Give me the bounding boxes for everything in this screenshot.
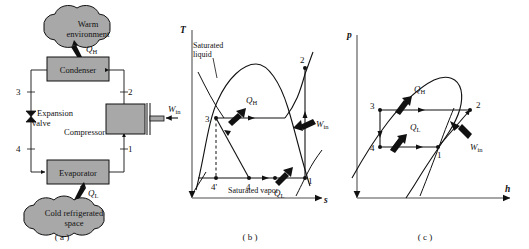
qh-arrow-panel-c bbox=[395, 96, 412, 115]
panel-c: p h 3 4 1 2 QH bbox=[346, 30, 510, 242]
ql-label-panel-c: QL bbox=[410, 122, 421, 133]
state-point-2-panel-c: 2 bbox=[476, 100, 481, 110]
state-dot-mid-panel-b bbox=[273, 176, 277, 180]
state-point-3-panel-a: 3 bbox=[16, 87, 21, 97]
state-point-1-panel-c: 1 bbox=[437, 150, 442, 160]
condenser-label: Condenser bbox=[60, 65, 97, 75]
state-dot-2-panel-c bbox=[468, 108, 472, 112]
state-point-3-panel-c: 3 bbox=[370, 101, 375, 111]
compressor-piston-rod bbox=[150, 116, 164, 121]
state-point-4prime-panel-b: 4' bbox=[211, 182, 218, 192]
caption-a: ( a ) bbox=[55, 232, 70, 242]
state-point-1-panel-b: 1 bbox=[308, 176, 313, 186]
state-point-2-panel-b: 2 bbox=[300, 55, 305, 65]
state-point-4-panel-a: 4 bbox=[16, 144, 21, 154]
qh-label-panel-b: QH bbox=[246, 95, 258, 106]
process-4-1-arrowhead-panel-b bbox=[262, 176, 269, 181]
saturated-liquid-label-line2: liquid bbox=[193, 50, 212, 59]
isobar-low-left bbox=[191, 172, 206, 196]
ql-arrow-panel-b bbox=[275, 167, 293, 186]
win-label-panel-c: Win bbox=[470, 142, 483, 153]
t-axis-label: T bbox=[180, 25, 187, 35]
state-point-3-panel-b: 3 bbox=[205, 114, 210, 124]
win-label-panel-a: Win bbox=[168, 104, 181, 115]
cold-space-line2: space bbox=[65, 218, 84, 228]
state-dot-1-panel-b bbox=[303, 176, 307, 180]
figure-svg: Warm environment QH Condenser Evaporator… bbox=[0, 0, 529, 249]
process-superheat-panel-b bbox=[285, 74, 305, 118]
state-dot-3-panel-b bbox=[214, 116, 218, 120]
figure-container: Warm environment QH Condenser Evaporator… bbox=[0, 0, 529, 249]
panel-a: Warm environment QH Condenser Evaporator… bbox=[16, 5, 181, 242]
process-2-3-arrowhead-panel-b bbox=[248, 116, 255, 121]
p-axis-label: p bbox=[346, 30, 352, 40]
process-3-4-panel-b bbox=[216, 118, 249, 178]
ql-arrow-panel-c bbox=[390, 134, 407, 153]
state-dot-4prime-panel-b bbox=[214, 176, 218, 180]
expansion-valve[interactable]: Expansion valve bbox=[26, 108, 74, 128]
win-label-panel-b: Win bbox=[316, 119, 329, 130]
expansion-valve-label-line1: Expansion bbox=[37, 108, 74, 118]
panel-b: T s 3 2 1 bbox=[180, 25, 329, 242]
saturation-dome-panel-b bbox=[196, 64, 310, 190]
saturation-dome-panel-c bbox=[352, 77, 462, 198]
qh-arrow-panel-b bbox=[228, 108, 246, 126]
ql-label-panel-b: QL bbox=[274, 188, 285, 199]
state-dot-1-panel-c bbox=[436, 145, 440, 149]
state-point-1-panel-a: 1 bbox=[128, 144, 133, 154]
ql-label-panel-a: QL bbox=[88, 188, 99, 199]
warm-environment-line2: environment bbox=[67, 29, 111, 39]
evaporator[interactable]: Evaporator bbox=[47, 160, 109, 184]
compressor-label: Compressor bbox=[64, 127, 105, 137]
compressor[interactable]: Compressor bbox=[64, 103, 164, 137]
caption-b: ( b ) bbox=[243, 232, 258, 242]
warm-environment-cloud: Warm environment bbox=[44, 5, 110, 47]
qh-label-panel-a: QH bbox=[86, 44, 98, 55]
state-point-2-panel-a: 2 bbox=[128, 87, 133, 97]
condenser[interactable]: Condenser bbox=[47, 57, 109, 81]
isobar-low-right bbox=[296, 150, 322, 196]
state-dot-3-panel-c bbox=[378, 108, 382, 112]
state-point-4-panel-c: 4 bbox=[370, 143, 375, 153]
caption-c: ( c ) bbox=[418, 232, 433, 242]
process-2-3-arrowhead-panel-c bbox=[418, 108, 425, 113]
cold-refrigerated-space-cloud: Cold refrigerated space bbox=[24, 196, 104, 237]
state-dot-4-panel-c bbox=[378, 145, 382, 149]
s-axis-label: s bbox=[323, 195, 328, 205]
state-dot-2-panel-b bbox=[303, 66, 307, 70]
saturated-vapor-label: Saturated vapor bbox=[228, 186, 279, 195]
process-4-1-arrowhead-panel-c bbox=[416, 145, 423, 150]
isobar-high-right bbox=[305, 52, 313, 74]
state-dot-4-panel-b bbox=[247, 176, 251, 180]
evaporator-label: Evaporator bbox=[59, 168, 97, 178]
saturated-liquid-leader bbox=[213, 58, 217, 78]
expansion-valve-label-line2: valve bbox=[32, 118, 51, 128]
cold-space-line1: Cold refrigerated bbox=[45, 208, 104, 218]
h-axis-label: h bbox=[505, 184, 510, 194]
saturated-liquid-label-line1: Saturated bbox=[193, 41, 223, 50]
process-1-2-arrowhead-panel-b bbox=[303, 111, 308, 118]
warm-environment-line1: Warm bbox=[78, 19, 99, 29]
